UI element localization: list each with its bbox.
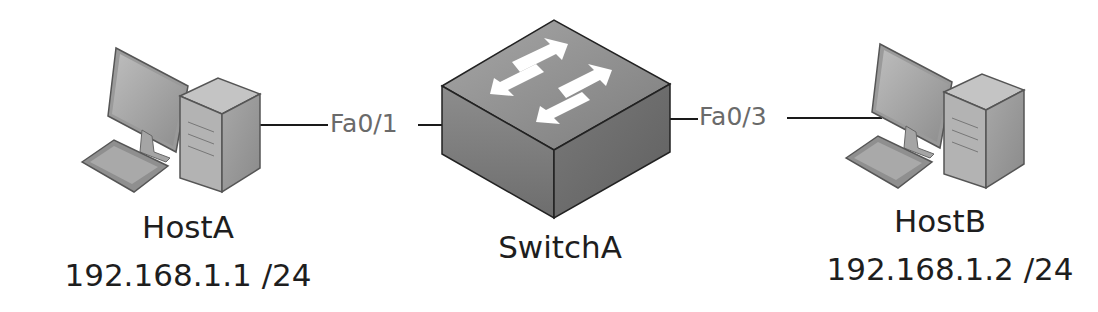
port-label-fa0-1: Fa0/1 [330,111,398,136]
port-label-fa0-3: Fa0/3 [699,104,767,129]
hostb-ip-label: 192.168.1.2 /24 [790,254,1098,285]
switcha-name-label: SwitchA [470,232,650,263]
hosta-name-label: HostA [118,212,258,243]
switch-icon [440,18,672,222]
network-diagram: Fa0/1 Fa0/3 [0,0,1098,312]
pc-icon-hosta [70,42,270,202]
link-hosta-fa0-1 [260,124,328,126]
link-switcha-fa0-3 [668,118,698,120]
pc-icon-hostb [834,38,1034,198]
hosta-ip-label: 192.168.1.1 /24 [28,260,348,291]
hostb-name-label: HostB [870,206,1010,237]
